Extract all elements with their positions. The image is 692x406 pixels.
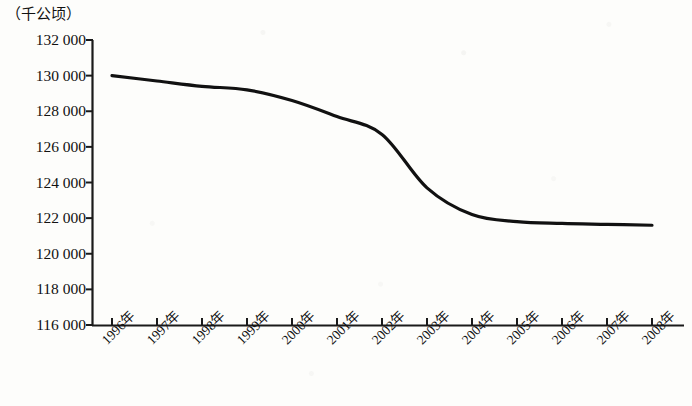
x-axis-tick-labels: 1996年1997年1998年1999年2000年2001年2002年2003年… [0, 0, 692, 406]
x-axis-tick-label: 1999年 [231, 306, 273, 348]
x-axis-tick-label: 2002年 [366, 306, 408, 348]
x-axis-tick-label: 2005年 [501, 306, 543, 348]
x-axis-tick-label: 2008年 [636, 306, 678, 348]
x-axis-tick-label: 2000年 [276, 306, 318, 348]
x-axis-tick-label: 2001年 [321, 306, 363, 348]
x-axis-tick-label: 2003年 [411, 306, 453, 348]
x-axis-tick-label: 1996年 [96, 306, 138, 348]
x-axis-tick-label: 1997年 [141, 306, 183, 348]
x-axis-tick-label: 2004年 [456, 306, 498, 348]
x-axis-tick-label: 2007年 [591, 306, 633, 348]
x-axis-tick-label: 2006年 [546, 306, 588, 348]
chart-figure: （千公顷） 132 000130 000128 000126 000124 00… [0, 0, 692, 406]
x-axis-tick-label: 1998年 [186, 306, 228, 348]
